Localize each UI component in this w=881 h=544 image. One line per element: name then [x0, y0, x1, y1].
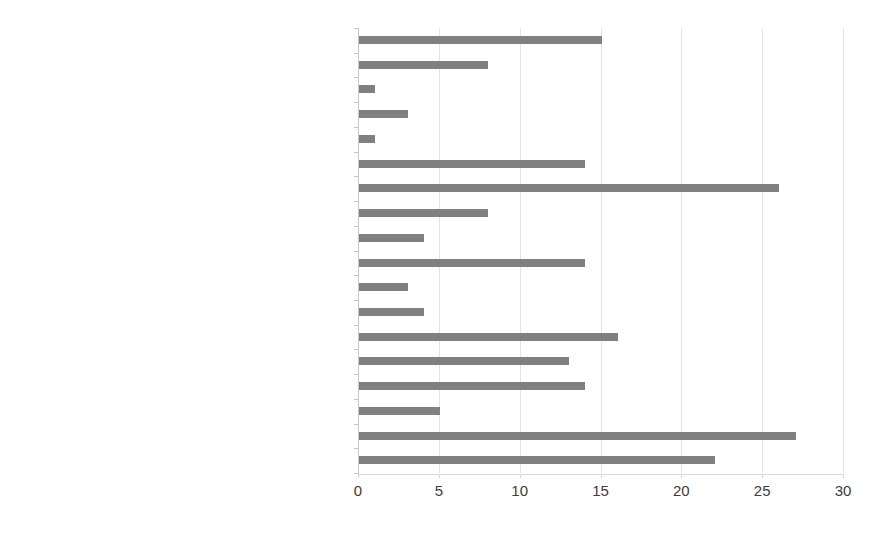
value-tick-label-20: 20	[673, 482, 690, 500]
bar-augmented-reality	[359, 308, 424, 316]
gridline-15	[601, 28, 602, 473]
gridline-25	[762, 28, 763, 473]
bar-green-technologies	[359, 259, 585, 267]
value-tick-label-30: 30	[835, 482, 852, 500]
bar-13	[359, 333, 618, 341]
value-tick-label-10: 10	[511, 482, 528, 500]
bar-5	[359, 135, 375, 143]
bar-3	[359, 85, 375, 93]
bar-video-surveillance	[359, 357, 569, 365]
value-tick-label-0: 0	[354, 482, 362, 500]
bar-17	[359, 432, 796, 440]
bar-consumption-sensors	[359, 407, 440, 415]
value-tick-label-25: 25	[754, 482, 771, 500]
category-axis-line	[358, 28, 359, 474]
value-tick-label-5: 5	[435, 482, 443, 500]
bar-it-infrastructure	[359, 456, 715, 464]
value-tick-label-15: 15	[592, 482, 609, 500]
bar-smart-energy	[359, 160, 585, 168]
bar-smart-lighting	[359, 209, 488, 217]
bar-public-transport	[359, 61, 488, 69]
bar-15	[359, 382, 585, 390]
bar-7	[359, 184, 779, 192]
bar-11	[359, 283, 408, 291]
value-axis-labels: 0 5 10 15 20 25 30	[358, 482, 844, 512]
gridline-10	[520, 28, 521, 473]
gridline-20	[681, 28, 682, 473]
bar-didnt-think	[359, 36, 602, 44]
category-axis-labels: Didn't think Public transport traffic mo…	[0, 0, 350, 544]
bar-chart: Didn't think Public transport traffic mo…	[0, 0, 881, 544]
bar-monitoring-movements	[359, 110, 408, 118]
plot-area	[358, 28, 843, 473]
gridline-30	[843, 28, 844, 473]
bar-9	[359, 234, 424, 242]
